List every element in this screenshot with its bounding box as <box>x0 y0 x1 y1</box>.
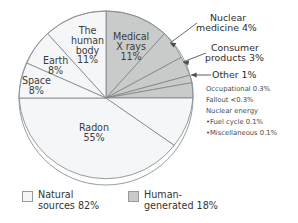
sublist-fuel-cycle: •Fuel cycle 0.1% <box>206 117 277 128</box>
leader-line-nuclear-medicine <box>170 23 197 48</box>
slice-label-space: Space 8% <box>22 76 51 96</box>
legend-label-human-line1: Human- <box>144 189 218 200</box>
leader-line-consumer-products <box>183 53 206 65</box>
callout-consumer-products: Consumer products 3% <box>205 43 264 63</box>
slice-label-earth: Earth 8% <box>43 56 68 76</box>
sublist-fallout: Fallout <0.3% <box>206 95 277 106</box>
slice-label-radon: Radon 55% <box>79 123 109 143</box>
legend-label-natural-line1: Natural <box>38 189 99 200</box>
slice-label-human-body: The human body 11% <box>71 26 104 65</box>
slice-label-human-body-value: 11% <box>71 55 104 65</box>
legend-swatch-human-generated <box>128 191 139 202</box>
other-breakdown-list: Occupational 0.3% Fallout <0.3% Nuclear … <box>206 84 277 139</box>
slice-label-medical-xrays: Medical X rays 11% <box>113 32 149 61</box>
slice-label-space-value: 8% <box>22 86 51 96</box>
callout-nuclear-medicine: Nuclear medicine 4% <box>196 13 257 33</box>
legend-label-human-line2: generated 18% <box>144 200 218 211</box>
pie-chart-figure: Space 8% Earth 8% The human body 11% Med… <box>0 0 298 223</box>
leader-line-other <box>191 73 211 78</box>
legend-item-human-generated[interactable]: Human- generated 18% <box>128 189 218 211</box>
callout-other-line1: Other 1% <box>212 70 256 80</box>
callout-consumer-products-line2: products 3% <box>205 53 264 63</box>
legend-swatch-natural-sources <box>22 191 33 202</box>
legend-label-human-generated: Human- generated 18% <box>144 189 218 211</box>
sublist-miscellaneous: •Miscellaneous 0.1% <box>206 128 277 139</box>
callout-nuclear-medicine-line2: medicine 4% <box>196 23 257 33</box>
legend-label-natural-line2: sources 82% <box>38 200 99 211</box>
sublist-nuclear-energy: Nuclear energy <box>206 106 277 117</box>
slice-label-earth-value: 8% <box>43 66 68 76</box>
callout-other: Other 1% <box>212 70 256 80</box>
legend-item-natural-sources[interactable]: Natural sources 82% <box>22 189 99 211</box>
legend-label-natural-sources: Natural sources 82% <box>38 189 99 211</box>
slice-label-medical-xrays-value: 11% <box>113 52 149 62</box>
slice-label-radon-value: 55% <box>79 133 109 143</box>
sublist-occupational: Occupational 0.3% <box>206 84 277 95</box>
legend: Natural sources 82% Human- generated 18% <box>22 189 272 219</box>
